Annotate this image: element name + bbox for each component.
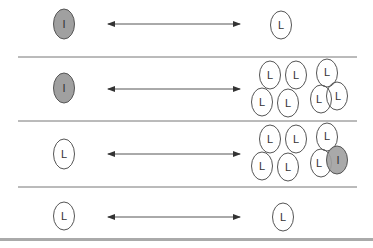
row-4: L L: [54, 202, 294, 231]
ellipse-label: L: [324, 66, 330, 78]
ellipse-label: L: [316, 93, 322, 105]
ellipse-label: L: [293, 133, 299, 145]
ellipse-label: I: [62, 82, 65, 94]
row-2: I L L L L L L L: [54, 59, 348, 117]
ellipse-label: L: [316, 157, 322, 169]
ellipse-label: L: [285, 161, 291, 173]
ellipse-label: L: [259, 96, 265, 108]
ellipse-label: I: [62, 18, 65, 30]
ligand-cluster: L L L L L L L: [252, 59, 348, 117]
ellipse-label: L: [61, 148, 67, 160]
inhibitor-ellipse: I: [54, 73, 75, 103]
ellipse-label: L: [280, 211, 286, 223]
ellipse-label: L: [259, 160, 265, 172]
ellipse-label: L: [335, 90, 341, 102]
ellipse-label: L: [267, 133, 273, 145]
ligand-ellipse: L: [54, 202, 75, 230]
ellipse-label: I: [336, 154, 339, 166]
ellipse-label: L: [293, 69, 299, 81]
row-3: L L L L L L L I: [54, 123, 348, 181]
ligand-cluster: L L L L L L I: [252, 123, 348, 181]
ellipse-label: L: [61, 210, 67, 222]
diagram-svg: I L I L L L L L L L: [0, 0, 373, 248]
diagram-canvas: I L I L L L L L L L: [0, 0, 373, 248]
inhibitor-ellipse: I: [54, 9, 75, 39]
ligand-ellipse: L: [54, 139, 75, 169]
ellipse-label: L: [324, 130, 330, 142]
ellipse-label: L: [267, 69, 273, 81]
ellipse-label: L: [285, 97, 291, 109]
ligand-ellipse: L: [271, 11, 292, 39]
ligand-ellipse: L: [273, 203, 294, 231]
row-1: I L: [54, 9, 292, 39]
ellipse-label: L: [278, 19, 284, 31]
bottom-band: [0, 238, 373, 241]
